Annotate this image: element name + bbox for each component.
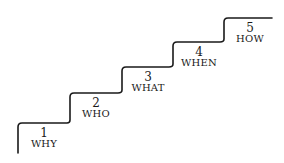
step-5-label: HOW — [225, 34, 275, 44]
step-3-label: WHAT — [123, 83, 173, 93]
step-2-label: WHO — [71, 109, 121, 119]
step-1-label: WHY — [19, 139, 69, 149]
step-4: 4 WHEN — [174, 46, 224, 68]
step-2: 2 WHO — [71, 97, 121, 119]
step-4-label: WHEN — [174, 58, 224, 68]
step-3: 3 WHAT — [123, 71, 173, 93]
step-1: 1 WHY — [19, 127, 69, 149]
step-5: 5 HOW — [225, 22, 275, 44]
